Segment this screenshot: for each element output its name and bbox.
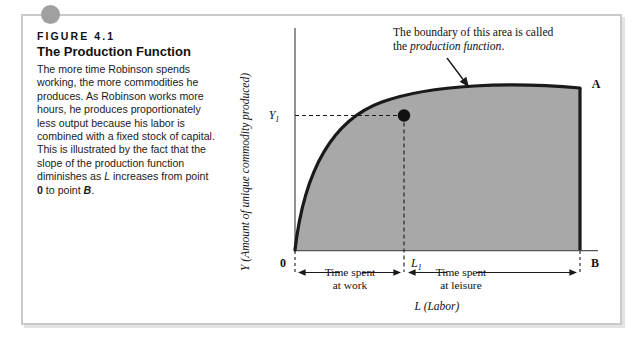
annotation-line-1: The boundary of this area is called bbox=[393, 26, 554, 39]
figure-caption: FIGURE 4.1 The Production Function The m… bbox=[37, 30, 215, 197]
point-a-label: A bbox=[592, 77, 601, 91]
y1-label: Y1 bbox=[269, 108, 280, 124]
point-b-label: B bbox=[591, 256, 599, 270]
operating-point-marker bbox=[398, 109, 410, 121]
work-bracket-line-1: Time spent bbox=[325, 266, 376, 278]
chart-svg: Y (Amount of unique commodity produced) … bbox=[232, 22, 612, 314]
shaded-production-area bbox=[295, 85, 580, 250]
production-function-chart: Y (Amount of unique commodity produced) … bbox=[232, 22, 612, 314]
y-axis-label: Y (Amount of unique commodity produced) bbox=[239, 73, 252, 271]
annotation-arrow bbox=[447, 58, 468, 86]
x-axis-label: L (Labor) bbox=[414, 300, 460, 313]
figure-title: The Production Function bbox=[37, 44, 215, 60]
corner-dot-decoration bbox=[41, 5, 60, 24]
figure-page: FIGURE 4.1 The Production Function The m… bbox=[0, 0, 643, 359]
figure-body-text: The more time Robinson spends working, t… bbox=[37, 63, 215, 197]
annotation-line-2: the production function. bbox=[393, 40, 504, 53]
figure-number: FIGURE 4.1 bbox=[37, 30, 215, 43]
l1-label: L1 bbox=[410, 256, 422, 272]
leisure-bracket-line-2: at leisure bbox=[440, 279, 481, 291]
origin-label: 0 bbox=[280, 256, 286, 270]
work-bracket-line-2: at work bbox=[333, 279, 368, 291]
leisure-bracket-line-1: Time spent bbox=[436, 266, 487, 278]
